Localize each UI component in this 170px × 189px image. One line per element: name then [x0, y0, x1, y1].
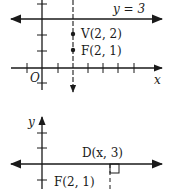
origin-label: O — [30, 71, 40, 85]
bottom-focus-label: F(2, 1) — [54, 175, 95, 189]
point-d-label: D(x, 3) — [82, 146, 123, 160]
directrix-label: y = 3 — [112, 2, 145, 16]
vertex-point — [71, 32, 75, 36]
right-angle-marker — [110, 164, 119, 173]
y-axis-label: y — [27, 115, 35, 129]
top-graph: y = 3 V(2, 2) F(2, 1) O x — [11, 0, 162, 92]
focus-point — [71, 48, 75, 52]
focus-label: F(2, 1) — [81, 44, 122, 58]
parabola-diagrams: y = 3 V(2, 2) F(2, 1) O x y — [0, 0, 170, 189]
bottom-graph: y D(x, 3) F(2, 1) — [11, 115, 162, 189]
x-axis-label: x — [154, 73, 161, 87]
vertex-label: V(2, 2) — [80, 27, 122, 41]
